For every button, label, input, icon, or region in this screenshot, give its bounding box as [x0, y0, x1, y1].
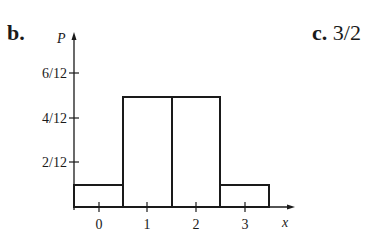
y-tick-4-12: 4/12 [42, 111, 67, 126]
x-tick-0: 0 [96, 217, 103, 232]
x-tick-2: 2 [193, 217, 200, 232]
x-axis-label: x [281, 215, 289, 230]
y-axis-label: P [56, 31, 66, 46]
x-tick-3: 3 [242, 217, 249, 232]
bar-1 [123, 97, 172, 207]
x-tick-1: 1 [144, 217, 151, 232]
bars [74, 97, 269, 207]
bar-2 [172, 97, 220, 207]
y-tick-2-12: 2/12 [42, 155, 67, 170]
x-axis-arrow-icon [287, 205, 295, 210]
y-axis-arrow-icon [72, 32, 77, 40]
histogram-chart: P x 6/12 4/12 2/12 0 1 2 3 [0, 0, 376, 244]
y-tick-6-12: 6/12 [42, 66, 67, 81]
